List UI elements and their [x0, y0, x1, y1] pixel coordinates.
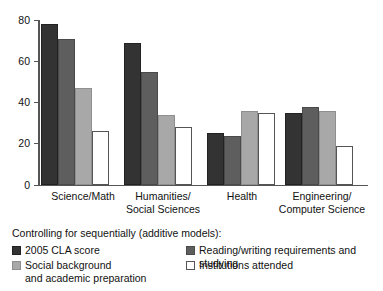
legend-label-institutions-attended: Institutions attended [199, 259, 293, 272]
bar-3-2 [319, 111, 336, 185]
bar-1-2 [158, 115, 175, 185]
legend-swatch-reading-writing [186, 246, 195, 255]
group-label-line1: Engineering/ [262, 190, 382, 203]
bars-layer [0, 0, 383, 215]
legend-label-social-background: Social background and academic preparati… [25, 259, 146, 284]
legend-swatch-institutions-attended [186, 261, 195, 270]
bar-2-1 [224, 136, 241, 186]
bar-2-0 [207, 133, 224, 185]
bar-0-0 [41, 24, 58, 185]
bar-2-3 [258, 113, 275, 185]
plot-area: 80 60 40 20 0 Science/Math Humanities/ S… [0, 0, 383, 215]
bar-0-2 [75, 88, 92, 185]
group-label-engineering-computer-science: Engineering/ Computer Science [262, 190, 382, 215]
bar-3-1 [302, 107, 319, 185]
bar-0-3 [92, 131, 109, 185]
bar-1-3 [175, 127, 192, 185]
legend-items: 2005 CLA score Social background and aca… [12, 244, 383, 286]
chart-legend: Controlling for sequentially (additive m… [12, 227, 383, 286]
bar-chart-figure: 80 60 40 20 0 Science/Math Humanities/ S… [0, 0, 383, 291]
bar-3-3 [336, 146, 353, 185]
legend-label-2005-cla-score: 2005 CLA score [25, 244, 100, 257]
legend-title: Controlling for sequentially (additive m… [12, 227, 383, 239]
legend-swatch-2005-cla-score [12, 246, 21, 255]
bar-1-0 [124, 43, 141, 185]
group-label-line2: Social Sciences [108, 203, 218, 216]
legend-item-institutions-attended: Institutions attended [186, 259, 293, 272]
bar-0-1 [58, 39, 75, 185]
legend-item-social-background: Social background and academic preparati… [12, 259, 146, 284]
legend-swatch-social-background [12, 261, 21, 270]
legend-item-2005-cla-score: 2005 CLA score [12, 244, 100, 257]
bar-3-0 [285, 113, 302, 185]
bar-1-1 [141, 72, 158, 185]
bar-2-2 [241, 111, 258, 185]
group-label-line2: Computer Science [262, 203, 382, 216]
